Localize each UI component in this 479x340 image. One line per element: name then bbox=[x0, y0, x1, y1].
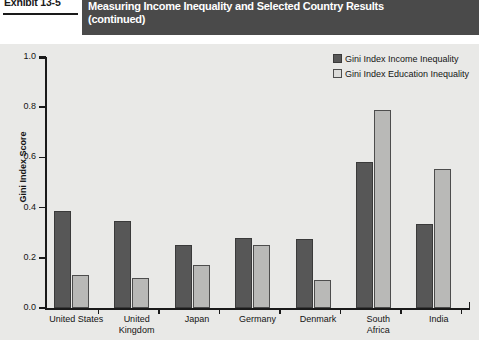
y-axis-tick bbox=[39, 157, 46, 159]
bar-education-india bbox=[434, 169, 451, 308]
y-axis-tick-label: 0.8 bbox=[6, 101, 36, 111]
bar-income-south-africa bbox=[356, 162, 373, 308]
legend-label-income: Gini Index Income Inequality bbox=[345, 54, 459, 64]
bar-education-japan bbox=[193, 265, 210, 308]
bar-education-south-africa bbox=[374, 110, 391, 308]
bar-income-germany bbox=[235, 238, 252, 308]
education-swatch-icon bbox=[333, 69, 342, 78]
chart-panel: Gini Index Score 0.00.20.40.60.81.0 Unit… bbox=[0, 44, 479, 340]
income-swatch-icon bbox=[333, 54, 342, 63]
bar-income-united-states bbox=[54, 211, 71, 308]
bars-layer bbox=[46, 57, 469, 308]
y-axis-tick bbox=[39, 207, 46, 209]
y-axis-tick-label: 0.6 bbox=[6, 151, 36, 161]
y-axis-title: Gini Index Score bbox=[18, 97, 28, 237]
y-axis-tick-label: 0.0 bbox=[6, 302, 36, 312]
bar-education-united-states bbox=[72, 275, 89, 308]
bar-income-japan bbox=[175, 245, 192, 308]
exhibit-title-banner: Measuring Income Inequality and Selected… bbox=[82, 0, 479, 35]
y-axis-tick bbox=[39, 106, 46, 108]
category-label-india: India bbox=[403, 314, 475, 325]
category-label-line: Kingdom bbox=[100, 325, 172, 336]
legend-item-income: Gini Index Income Inequality bbox=[333, 52, 479, 65]
chart-legend: Gini Index Income Inequality Gini Index … bbox=[333, 52, 479, 82]
bar-income-united-kingdom bbox=[114, 221, 131, 308]
category-label-line: India bbox=[403, 314, 475, 325]
exhibit-rule-divider bbox=[3, 13, 78, 15]
bar-education-united-kingdom bbox=[132, 278, 149, 308]
bar-income-denmark bbox=[296, 239, 313, 308]
y-axis-tick-label: 0.2 bbox=[6, 252, 36, 262]
exhibit-subtitle: (continued) bbox=[88, 13, 473, 26]
x-axis-line bbox=[45, 308, 470, 310]
category-label-line: Africa bbox=[342, 325, 414, 336]
y-axis-tick bbox=[39, 307, 46, 309]
exhibit-title: Measuring Income Inequality and Selected… bbox=[88, 0, 473, 13]
y-axis-tick-label: 0.4 bbox=[6, 202, 36, 212]
y-axis-tick-label: 1.0 bbox=[6, 51, 36, 61]
legend-label-education: Gini Index Education Inequality bbox=[345, 69, 469, 79]
exhibit-header: Exhibit 13-5 Measuring Income Inequality… bbox=[0, 0, 479, 36]
legend-item-education: Gini Index Education Inequality bbox=[333, 67, 479, 80]
bar-education-denmark bbox=[314, 280, 331, 308]
y-axis-tick bbox=[39, 56, 46, 58]
bar-education-germany bbox=[253, 245, 270, 308]
y-axis-tick bbox=[39, 257, 46, 259]
bar-income-india bbox=[416, 224, 433, 308]
exhibit-number-label: Exhibit 13-5 bbox=[4, 0, 80, 8]
